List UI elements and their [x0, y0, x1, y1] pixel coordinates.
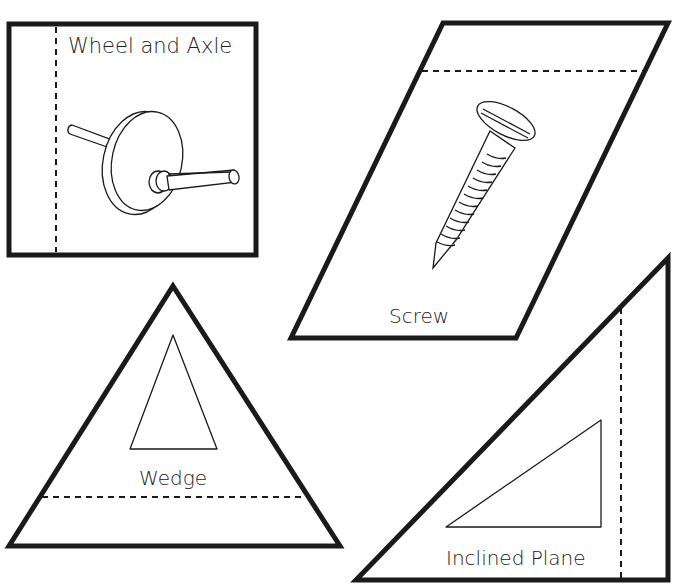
- screw-piece[interactable]: Screw: [291, 23, 668, 338]
- wedge-label: Wedge: [139, 466, 207, 490]
- wedge-piece[interactable]: Wedge: [9, 286, 340, 546]
- inclined-plane-label: Inclined Plane: [446, 546, 586, 570]
- wheel-and-axle-piece[interactable]: Wheel and Axle: [9, 24, 256, 255]
- wheel-and-axle-label: Wheel and Axle: [68, 34, 232, 58]
- worksheet-canvas: Wheel and Axle Screw: [0, 0, 673, 584]
- screw-label: Screw: [389, 304, 449, 328]
